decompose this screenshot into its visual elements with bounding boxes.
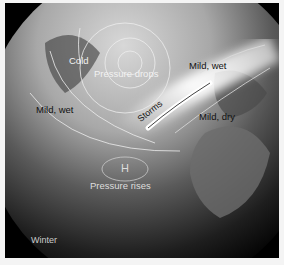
label-mild-wet-left: Mild, wet (36, 105, 73, 115)
season-label: Winter (31, 236, 57, 245)
label-mild-wet-right: Mild, wet (189, 61, 226, 71)
label-mild-dry: Mild, dry (199, 112, 235, 122)
globe-figure: Cold Pressure drops Mild, wet Storms Mil… (5, 3, 279, 258)
label-cold: Cold (69, 56, 89, 66)
globe-illustration (5, 3, 279, 258)
high-pressure-marker: H (121, 163, 129, 174)
label-pressure-drops: Pressure drops (94, 69, 158, 79)
label-pressure-rises: Pressure rises (90, 181, 151, 191)
